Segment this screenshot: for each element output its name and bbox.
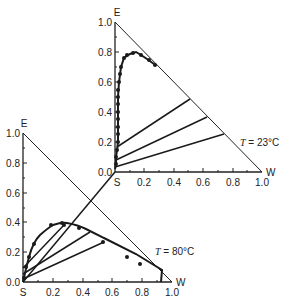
svg-text:0.2: 0.2 xyxy=(46,287,60,298)
lower-vertex-e: E xyxy=(21,118,28,129)
svg-text:1.0: 1.0 xyxy=(165,287,179,298)
svg-text:0.4: 0.4 xyxy=(167,177,181,188)
svg-text:0.6: 0.6 xyxy=(6,188,20,199)
svg-text:0.0: 0.0 xyxy=(6,277,20,288)
upper-vertex-s: S xyxy=(114,177,121,188)
upper-diagram: 0.0 0.2 0.4 0.6 0.8 1.0 0.2 0.4 0.6 0.8 … xyxy=(98,7,279,188)
svg-text:0.4: 0.4 xyxy=(6,217,20,228)
ternary-diagram-figure: 0.0 0.2 0.4 0.6 0.8 1.0 0.2 0.4 0.6 0.8 … xyxy=(0,0,286,303)
lower-vertex-w: W xyxy=(176,277,186,288)
upper-vertex-w: W xyxy=(266,167,276,178)
svg-text:1.0: 1.0 xyxy=(255,177,269,188)
svg-text:0.8: 0.8 xyxy=(135,287,149,298)
svg-text:0.8: 0.8 xyxy=(98,47,112,58)
lower-vertex-s: S xyxy=(20,287,27,298)
svg-text:0.4: 0.4 xyxy=(98,107,112,118)
lower-x-tick-labels: 0.2 0.4 0.6 0.8 1.0 xyxy=(46,287,179,298)
upper-x-tick-labels: 0.2 0.4 0.6 0.8 1.0 xyxy=(137,177,269,188)
lower-y-tick-labels: 0.0 0.2 0.4 0.6 0.8 1.0 xyxy=(6,128,20,288)
svg-text:0.6: 0.6 xyxy=(105,287,119,298)
svg-text:0.8: 0.8 xyxy=(6,158,20,169)
svg-text:0.6: 0.6 xyxy=(196,177,210,188)
svg-text:0.8: 0.8 xyxy=(226,177,240,188)
connector-line xyxy=(23,172,115,282)
upper-y-tick-labels: 0.0 0.2 0.4 0.6 0.8 1.0 xyxy=(98,17,112,178)
svg-text:0.2: 0.2 xyxy=(137,177,151,188)
svg-text:1.0: 1.0 xyxy=(6,128,20,139)
upper-vertex-e: E xyxy=(114,7,121,18)
svg-text:0.2: 0.2 xyxy=(98,137,112,148)
svg-text:1.0: 1.0 xyxy=(98,17,112,28)
svg-text:0.2: 0.2 xyxy=(6,247,20,258)
svg-text:0.0: 0.0 xyxy=(98,167,112,178)
svg-text:0.6: 0.6 xyxy=(98,77,112,88)
lower-temperature-label: T = 80°C xyxy=(155,246,194,257)
upper-data-points xyxy=(114,51,157,166)
svg-text:0.4: 0.4 xyxy=(76,287,90,298)
lower-binodal-curve xyxy=(23,223,162,282)
upper-temperature-label: T = 23°C xyxy=(240,137,279,148)
upper-tie-lines xyxy=(115,99,224,167)
